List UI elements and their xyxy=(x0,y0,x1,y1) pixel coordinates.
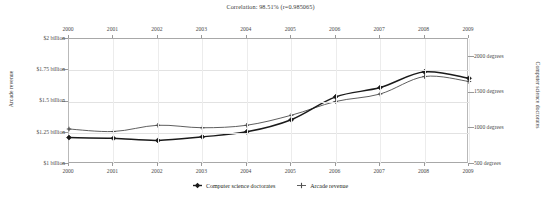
x-axis-tick-top xyxy=(112,35,113,38)
x-axis-tick-bottom xyxy=(68,163,69,166)
x-axis-tick-bottom xyxy=(379,163,380,166)
x-axis-tick-bottom xyxy=(468,163,469,166)
x-axis-tick-top xyxy=(424,35,425,38)
left-axis-tick-label: $1.25 billion xyxy=(36,129,65,135)
x-axis-label-bottom: 2002 xyxy=(137,168,177,174)
x-axis-tick-bottom xyxy=(112,163,113,166)
left-axis-tick-label: $1 billion xyxy=(43,160,65,166)
thin-cross-icon xyxy=(297,181,306,190)
data-point-arcade-revenue xyxy=(67,127,71,131)
x-axis-label-top: 2005 xyxy=(270,26,310,32)
x-axis-tick-bottom xyxy=(335,163,336,166)
chart-title: Correlation: 98.51% (r=0.985065) xyxy=(0,3,541,10)
x-axis-tick-top xyxy=(201,35,202,38)
x-axis-label-top: 2004 xyxy=(226,26,266,32)
right-axis-tick-label: 2000 degrees xyxy=(474,53,504,59)
x-axis-label-bottom: 2003 xyxy=(181,168,221,174)
legend-item[interactable]: Arcade revenue xyxy=(297,181,348,190)
right-axis-tick-label: 1000 degrees xyxy=(474,124,504,130)
left-axis-tick-label: $1.5 billion xyxy=(39,97,65,103)
horizontal-gridline xyxy=(69,70,469,71)
x-axis-label-top: 2002 xyxy=(137,26,177,32)
legend-item[interactable]: Computer science doctorates xyxy=(193,181,275,190)
x-axis-label-bottom: 2000 xyxy=(48,168,88,174)
horizontal-gridline xyxy=(69,133,469,134)
x-axis-tick-top xyxy=(246,35,247,38)
left-axis-tick-label: $1.75 billion xyxy=(36,66,65,72)
x-axis-label-top: 2001 xyxy=(92,26,132,32)
data-point-computer-science-doctorates xyxy=(67,135,72,140)
vertical-gridline xyxy=(247,39,248,164)
series-line-arcade-revenue xyxy=(69,76,469,132)
x-axis-tick-top xyxy=(290,35,291,38)
vertical-gridline xyxy=(425,39,426,164)
x-axis-label-top: 2000 xyxy=(48,26,88,32)
legend-label: Arcade revenue xyxy=(310,183,348,189)
x-axis-label-top: 2006 xyxy=(315,26,355,32)
x-axis-label-bottom: 2007 xyxy=(359,168,399,174)
chart-legend: Computer science doctoratesArcade revenu… xyxy=(0,181,541,190)
x-axis-tick-top xyxy=(335,35,336,38)
x-axis-tick-bottom xyxy=(424,163,425,166)
x-axis-tick-bottom xyxy=(157,163,158,166)
x-axis-label-top: 2007 xyxy=(359,26,399,32)
vertical-gridline xyxy=(291,39,292,164)
x-axis-tick-top xyxy=(379,35,380,38)
x-axis-tick-top xyxy=(68,35,69,38)
vertical-gridline xyxy=(380,39,381,164)
legend-label: Computer science doctorates xyxy=(206,183,275,189)
x-axis-label-bottom: 2009 xyxy=(448,168,488,174)
x-axis-label-top: 2003 xyxy=(181,26,221,32)
x-axis-label-bottom: 2001 xyxy=(92,168,132,174)
x-axis-label-bottom: 2005 xyxy=(270,168,310,174)
right-axis-tick-label: 1500 degrees xyxy=(474,88,504,94)
horizontal-gridline xyxy=(69,102,469,103)
vertical-gridline xyxy=(158,39,159,164)
left-axis-title: Arcade revenue xyxy=(8,54,14,124)
x-axis-label-bottom: 2008 xyxy=(404,168,444,174)
vertical-gridline xyxy=(336,39,337,164)
x-axis-label-bottom: 2004 xyxy=(226,168,266,174)
vertical-gridline xyxy=(113,39,114,164)
x-axis-tick-top xyxy=(157,35,158,38)
x-axis-tick-bottom xyxy=(246,163,247,166)
filled-diamond-icon xyxy=(193,181,202,190)
chart-root: Correlation: 98.51% (r=0.985065) Arcade … xyxy=(0,0,541,201)
x-axis-tick-bottom xyxy=(290,163,291,166)
x-axis-tick-top xyxy=(468,35,469,38)
vertical-gridline xyxy=(202,39,203,164)
x-axis-label-bottom: 2006 xyxy=(315,168,355,174)
right-axis-tick-label: 500 degrees xyxy=(474,160,501,166)
x-axis-label-top: 2009 xyxy=(448,26,488,32)
vertical-gridline xyxy=(469,39,470,164)
right-axis-title: Computer science doctorates xyxy=(535,49,541,141)
x-axis-tick-bottom xyxy=(201,163,202,166)
left-axis-tick-label: $2 billion xyxy=(43,35,65,41)
plot-area xyxy=(68,38,468,163)
x-axis-label-top: 2008 xyxy=(404,26,444,32)
